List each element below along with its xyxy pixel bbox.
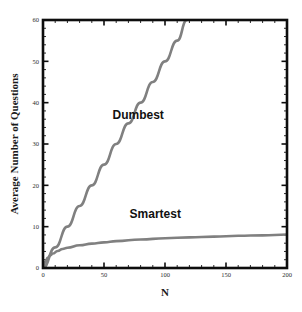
series-annotation-smartest: Smartest bbox=[130, 207, 181, 221]
y-tick-label: 40 bbox=[33, 99, 40, 106]
x-tick-label: 150 bbox=[221, 271, 231, 278]
y-tick-label: 60 bbox=[33, 16, 40, 23]
y-tick-label: 0 bbox=[36, 264, 39, 271]
x-tick-label: 50 bbox=[101, 271, 108, 278]
chart-figure: 050100150200 0102030405060 DumbestSmarte… bbox=[0, 0, 302, 312]
plot-area bbox=[43, 20, 287, 268]
x-axis-title: N bbox=[161, 286, 169, 298]
y-tick-label: 30 bbox=[33, 140, 40, 147]
y-tick-label: 50 bbox=[33, 58, 40, 65]
y-tick-label: 20 bbox=[33, 182, 40, 189]
y-tick-label: 10 bbox=[33, 223, 40, 230]
y-axis-title: Average Number of Questions bbox=[8, 73, 20, 215]
series-annotation-dumbest: Dumbest bbox=[112, 108, 163, 122]
x-tick-label: 200 bbox=[282, 271, 292, 278]
x-tick-label: 100 bbox=[160, 271, 170, 278]
x-tick-label: 0 bbox=[41, 271, 44, 278]
line-chart: 050100150200 0102030405060 DumbestSmarte… bbox=[0, 0, 302, 312]
